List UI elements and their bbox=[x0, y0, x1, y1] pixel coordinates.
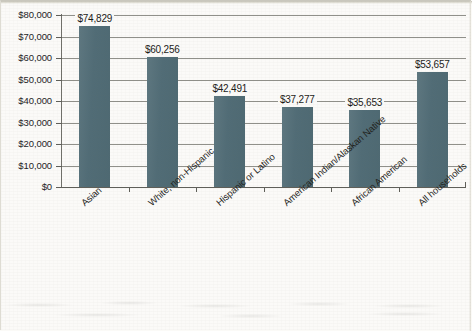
y-axis-tick-label: $50,000 bbox=[0, 74, 52, 85]
bar-value-label: $37,277 bbox=[263, 94, 331, 105]
bar-value-label: $74,829 bbox=[61, 13, 129, 24]
scan-edge-top bbox=[1, 1, 472, 4]
y-axis-tick-mark bbox=[56, 166, 62, 167]
bar bbox=[417, 72, 448, 187]
y-axis-tick-mark bbox=[56, 101, 62, 102]
y-axis-tick-mark bbox=[56, 37, 62, 38]
x-axis-tick-mark bbox=[399, 187, 400, 192]
bar bbox=[214, 96, 245, 187]
y-axis-tick-label: $30,000 bbox=[0, 117, 52, 128]
bar-value-label: $53,657 bbox=[398, 59, 466, 70]
bar-value-label: $42,491 bbox=[196, 83, 264, 94]
y-axis-tick-mark bbox=[56, 80, 62, 81]
y-axis-tick-label: $0 bbox=[0, 181, 52, 192]
x-axis-tick-mark bbox=[264, 187, 265, 192]
gridline bbox=[61, 144, 466, 145]
x-axis-tick-mark bbox=[331, 187, 332, 192]
scan-bleed-through bbox=[1, 297, 472, 323]
y-axis-tick-label: $20,000 bbox=[0, 138, 52, 149]
y-axis-tick-label: $70,000 bbox=[0, 31, 52, 42]
x-axis-tick-mark bbox=[129, 187, 130, 192]
bar bbox=[79, 26, 110, 187]
x-axis-tick-mark bbox=[196, 187, 197, 192]
y-axis-tick-mark bbox=[56, 144, 62, 145]
gridline bbox=[61, 80, 466, 81]
x-axis-line bbox=[57, 187, 466, 188]
bar-value-label: $35,653 bbox=[331, 97, 399, 108]
y-axis-tick-label: $60,000 bbox=[0, 52, 52, 63]
scan-edge-right bbox=[469, 1, 471, 331]
y-axis-tick-label: $10,000 bbox=[0, 160, 52, 171]
gridline bbox=[61, 123, 466, 124]
gridline bbox=[61, 37, 466, 38]
x-axis-end-cap bbox=[465, 182, 466, 188]
bar-value-label: $60,256 bbox=[128, 44, 196, 55]
y-axis-tick-mark bbox=[56, 123, 62, 124]
y-axis-tick-label: $80,000 bbox=[0, 9, 52, 20]
bar bbox=[147, 57, 178, 187]
y-axis-tick-label: $40,000 bbox=[0, 95, 52, 106]
y-axis-tick-mark bbox=[56, 58, 62, 59]
